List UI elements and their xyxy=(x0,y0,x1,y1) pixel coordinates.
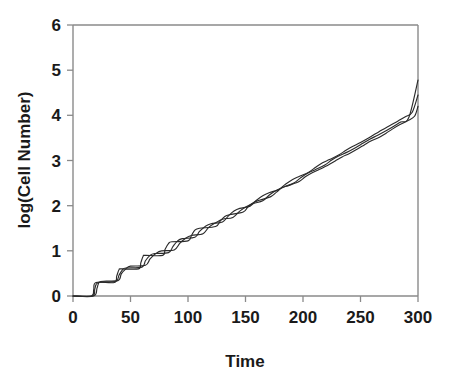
y-tick-label: 2 xyxy=(52,197,61,216)
x-axis-title: Time xyxy=(225,352,264,371)
x-tick-label: 300 xyxy=(404,308,432,327)
y-tick-labels: 0 1 2 3 4 5 6 xyxy=(52,16,62,306)
plot-axes xyxy=(73,25,418,296)
series-line-curve-3 xyxy=(73,80,418,297)
chart-page: 0 1 2 3 4 5 6 0 50 100 150 200 250 300 T… xyxy=(0,0,450,386)
y-tick-label: 3 xyxy=(52,152,61,171)
x-tick-label: 0 xyxy=(68,308,77,327)
x-tick-marks xyxy=(73,296,418,302)
y-tick-label: 5 xyxy=(52,61,61,80)
x-tick-label: 50 xyxy=(121,308,140,327)
x-tick-labels: 0 50 100 150 200 250 300 xyxy=(68,308,432,327)
y-tick-marks xyxy=(67,25,73,296)
y-tick-label: 4 xyxy=(52,106,62,125)
series-line-curve-2 xyxy=(73,95,418,297)
y-axis-title: log(Cell Number) xyxy=(15,92,34,229)
y-tick-label: 6 xyxy=(52,16,61,35)
growth-curve-chart: 0 1 2 3 4 5 6 0 50 100 150 200 250 300 T… xyxy=(0,0,450,386)
x-tick-label: 150 xyxy=(231,308,259,327)
y-tick-label: 1 xyxy=(52,242,61,261)
x-tick-label: 200 xyxy=(289,308,317,327)
y-tick-label: 0 xyxy=(52,287,61,306)
x-tick-label: 100 xyxy=(174,308,202,327)
data-series-group xyxy=(73,80,418,297)
x-tick-label: 250 xyxy=(346,308,374,327)
